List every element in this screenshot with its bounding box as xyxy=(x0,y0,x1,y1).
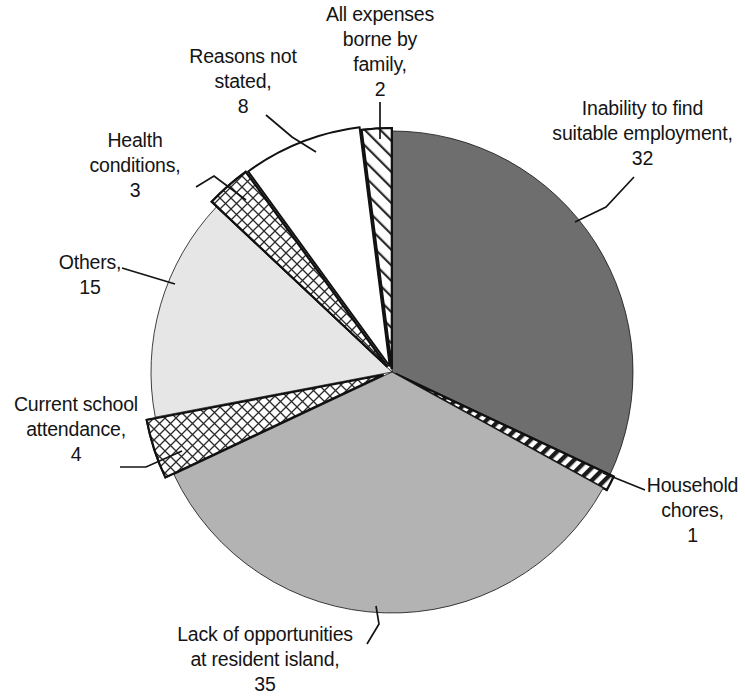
pie-chart-page: Inability to find suitable employment, 3… xyxy=(0,0,745,698)
slice-label-household-chores: Household chores, 1 xyxy=(640,473,745,548)
pie-slices-group xyxy=(147,127,633,613)
slice-label-lack-of-opportunities: Lack of opportunities at resident island… xyxy=(140,622,390,697)
slice-label-inability: Inability to find suitable employment, 3… xyxy=(540,96,745,171)
slice-label-current-school-attendance: Current school attendance, 4 xyxy=(0,392,152,467)
slice-label-reasons-not-stated: Reasons not stated, 8 xyxy=(168,44,318,119)
slice-label-others: Others, 15 xyxy=(30,250,150,300)
leader-line-inability xyxy=(575,177,634,222)
slice-label-health-conditions: Health conditions, 3 xyxy=(65,128,205,203)
slice-label-all-expenses-borne-by-family: All expenses borne by family, 2 xyxy=(300,2,460,102)
